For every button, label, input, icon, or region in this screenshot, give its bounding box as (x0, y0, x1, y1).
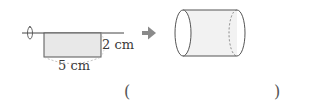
width-label: 5 cm (58, 59, 90, 72)
answer-open-paren: ( (124, 84, 130, 100)
cylinder-shape (175, 10, 245, 56)
arrow-icon (142, 27, 156, 40)
answer-close-paren: ) (274, 84, 280, 100)
rectangle-shape (44, 33, 101, 57)
answer-blank[interactable] (134, 84, 274, 102)
height-label: 2 cm (102, 38, 134, 51)
